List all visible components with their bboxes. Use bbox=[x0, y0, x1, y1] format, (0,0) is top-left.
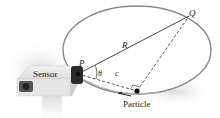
angle-theta-label: θ bbox=[98, 69, 102, 78]
point-p-dot bbox=[76, 72, 81, 77]
sensor-label: Sensor bbox=[33, 69, 58, 79]
chord-c-label: c bbox=[115, 69, 119, 78]
point-p-label: P bbox=[78, 58, 85, 68]
circular-track-diagram: Sensor Particle P Q R θ c bbox=[0, 0, 220, 118]
radius-label: R bbox=[121, 40, 128, 50]
particle-dot bbox=[134, 88, 139, 93]
particle-label: Particle bbox=[123, 99, 151, 109]
point-q-label: Q bbox=[189, 8, 196, 18]
sensor-lens-center-icon bbox=[23, 83, 30, 90]
